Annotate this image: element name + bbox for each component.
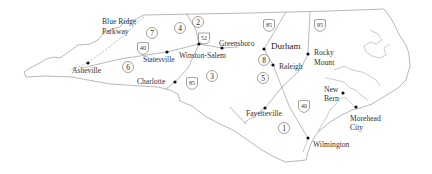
city-label-winston-salem: Winston-Salem <box>179 51 226 60</box>
city-label-statesville: Statesville <box>143 55 175 64</box>
highway-shield-40-west: 40 <box>138 42 149 54</box>
svg-text:4: 4 <box>178 24 182 33</box>
svg-text:8: 8 <box>262 56 266 65</box>
region-line-southwest <box>230 107 246 124</box>
city-label-city: City <box>350 123 363 132</box>
city-dot-asheville <box>86 61 89 64</box>
city-label-bern: Bern <box>324 94 339 103</box>
region-marker-6: 6 <box>123 62 134 73</box>
highway-shield-95: 95 <box>315 19 326 31</box>
city-label-durham: Durham <box>271 41 301 51</box>
highway-shield-85-charlotte: 85 <box>187 77 198 89</box>
svg-text:7: 7 <box>150 29 154 38</box>
svg-text:95: 95 <box>317 22 323 28</box>
svg-text:52: 52 <box>201 35 207 41</box>
north-carolina-map: Blue Ridge Parkway Asheville Statesville… <box>0 0 432 174</box>
city-dot-morehead-city <box>354 105 357 108</box>
svg-text:2: 2 <box>196 18 200 27</box>
city-label-fayetteville: Fayetteville <box>246 109 282 118</box>
region-line-charlotte-southwest <box>166 82 175 89</box>
city-label-greensboro: Greensboro <box>219 39 255 48</box>
state-border <box>24 9 410 162</box>
city-dot-rocky-mount <box>306 52 309 55</box>
region-line-charlotte-winston <box>175 44 199 82</box>
city-label-mount: Mount <box>314 58 335 67</box>
region-marker-2: 2 <box>193 17 204 28</box>
region-marker-4: 4 <box>175 23 186 34</box>
city-label-asheville: Asheville <box>72 66 102 75</box>
highway-shield-52: 52 <box>199 33 210 44</box>
city-label-wilmington: Wilmington <box>313 140 350 149</box>
svg-text:85: 85 <box>189 80 195 86</box>
svg-text:5: 5 <box>261 74 265 83</box>
region-marker-8: 8 <box>259 55 270 66</box>
city-dot-wilmington <box>306 136 309 139</box>
city-label-morehead: Morehead <box>350 114 381 123</box>
region-marker-7: 7 <box>147 28 158 39</box>
city-dot-statesville <box>165 50 168 53</box>
region-marker-1: 1 <box>279 123 290 134</box>
svg-text:1: 1 <box>282 124 286 133</box>
svg-text:3: 3 <box>210 72 214 81</box>
svg-text:6: 6 <box>126 63 130 72</box>
city-dot-durham <box>262 47 265 50</box>
region-marker-3: 3 <box>207 71 218 82</box>
highway-shield-40-east: 40 <box>299 100 310 112</box>
city-dot-raleigh <box>271 63 274 66</box>
city-label-rocky: Rocky <box>314 48 334 57</box>
svg-text:85: 85 <box>266 22 272 28</box>
svg-text:40: 40 <box>301 103 307 109</box>
parkway-label-line1: Blue Ridge <box>102 17 137 26</box>
city-dot-new-bern <box>341 91 344 94</box>
city-label-new: New <box>324 85 339 94</box>
city-label-charlotte: Charlotte <box>137 77 166 86</box>
region-marker-5: 5 <box>258 73 269 84</box>
parkway-label-line2: Parkway <box>102 27 129 36</box>
city-label-raleigh: Raleigh <box>279 62 303 71</box>
svg-text:40: 40 <box>140 45 146 51</box>
highway-shield-85-north: 85 <box>264 19 275 31</box>
city-dot-charlotte <box>173 80 176 83</box>
